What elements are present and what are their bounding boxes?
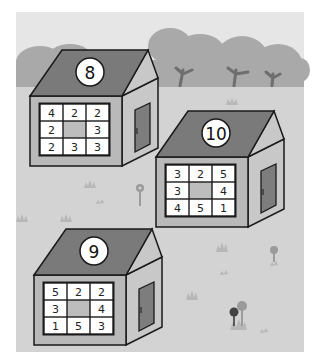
puzzle-scene: 842223233 1032534451 952234153 [0, 0, 319, 363]
grid-number: 3 [71, 141, 78, 154]
grid-number: 4 [220, 185, 227, 198]
grid-number: 5 [52, 286, 59, 299]
grid-number: 2 [197, 168, 204, 181]
grid-number: 2 [71, 107, 78, 120]
roof-number: 8 [85, 63, 96, 83]
door [261, 164, 276, 213]
grid-number: 2 [48, 141, 55, 154]
grid-number: 4 [48, 107, 55, 120]
grid-number: 2 [75, 286, 82, 299]
number-grid: 52234153 [43, 282, 115, 336]
grid-number: 4 [174, 202, 181, 215]
grid-number: 1 [52, 320, 59, 333]
grid-cell-center [68, 301, 90, 317]
number-grid: 32534451 [165, 164, 237, 218]
house-10: 1032534451 [156, 111, 284, 227]
grid-number: 2 [94, 107, 101, 120]
grid-cell-center [190, 183, 212, 199]
house-9: 952234153 [34, 229, 162, 345]
house-8: 842223233 [30, 50, 158, 166]
grid-number: 2 [48, 124, 55, 137]
roof-number: 9 [89, 242, 100, 262]
grid-number: 3 [174, 185, 181, 198]
grid-number: 5 [220, 168, 227, 181]
grid-number: 1 [220, 202, 227, 215]
grid-number: 3 [94, 124, 101, 137]
grid-number: 3 [94, 141, 101, 154]
grid-cell-center [64, 122, 86, 138]
door [135, 103, 150, 152]
grid-number: 4 [98, 303, 105, 316]
grid-number: 3 [52, 303, 59, 316]
grid-number: 5 [75, 320, 82, 333]
number-grid: 42223233 [39, 103, 111, 157]
grid-number: 3 [98, 320, 105, 333]
roof-number: 10 [205, 124, 227, 144]
door [139, 282, 154, 331]
grid-number: 3 [174, 168, 181, 181]
grid-number: 2 [98, 286, 105, 299]
grid-number: 5 [197, 202, 204, 215]
